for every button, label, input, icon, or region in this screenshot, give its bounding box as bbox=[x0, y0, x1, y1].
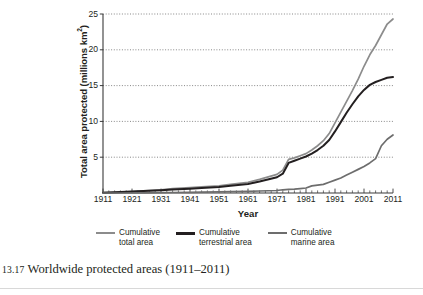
series-line-total bbox=[103, 19, 393, 193]
legend-item[interactable]: Cumulative terrestrial area bbox=[176, 228, 252, 248]
x-tick-label: 2011 bbox=[373, 195, 413, 204]
legend-color-swatch bbox=[176, 232, 195, 235]
chart-area: Total area protected (millions km2) 5101… bbox=[0, 0, 423, 256]
legend-item-label: Cumulative marine area bbox=[291, 228, 335, 248]
legend-color-swatch bbox=[96, 232, 115, 234]
y-tick-label: 5 bbox=[72, 153, 98, 162]
figure-caption-number: 13.17 bbox=[2, 264, 25, 275]
y-tick-label: 10 bbox=[72, 117, 98, 126]
y-tick-label: 25 bbox=[72, 10, 98, 19]
figure-caption: 13.17 Worldwide protected areas (1911–20… bbox=[2, 262, 421, 277]
figure-caption-text: Worldwide protected areas (1911–2011) bbox=[28, 262, 230, 276]
legend-item[interactable]: Cumulative total area bbox=[96, 228, 160, 248]
legend-color-swatch bbox=[268, 232, 287, 234]
legend-item-label: Cumulative terrestrial area bbox=[199, 228, 252, 248]
y-axis-tick-labels: 510152025 bbox=[72, 0, 98, 200]
y-tick-label: 15 bbox=[72, 81, 98, 90]
page-divider bbox=[0, 288, 423, 289]
x-axis-tick-labels: 1911192119311941195119611971198119912001… bbox=[0, 195, 423, 209]
chart-legend: Cumulative total areaCumulative terrestr… bbox=[96, 228, 396, 248]
figure-container: Total area protected (millions km2) 5101… bbox=[0, 0, 423, 295]
legend-item[interactable]: Cumulative marine area bbox=[268, 228, 335, 248]
x-axis-title: Year bbox=[103, 208, 393, 219]
y-tick-label: 20 bbox=[72, 45, 98, 54]
legend-item-label: Cumulative total area bbox=[119, 228, 160, 248]
